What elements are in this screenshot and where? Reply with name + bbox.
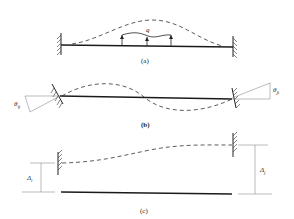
translated-support-left-icon bbox=[58, 150, 62, 175]
rotation-label-right: θji bbox=[273, 86, 280, 95]
fixed-support-left-icon bbox=[57, 33, 61, 55]
displacement-label-left: Δi bbox=[26, 174, 33, 183]
fixed-support-right-icon bbox=[233, 36, 237, 58]
rotation-label-left: θij bbox=[14, 100, 21, 109]
load-arrows-icon bbox=[120, 35, 173, 46]
caption-b: (b) bbox=[141, 121, 150, 129]
beam-b bbox=[60, 96, 232, 99]
beam-c bbox=[61, 192, 232, 194]
caption-c: (c) bbox=[140, 207, 148, 215]
translated-support-right-icon bbox=[233, 132, 237, 157]
deflected-shape-c bbox=[62, 145, 232, 163]
displacement-dimension-right-icon bbox=[238, 145, 272, 194]
panel-b: θij θji (b) bbox=[14, 83, 280, 129]
panel-c: Δi Δj (c) bbox=[22, 132, 272, 215]
caption-a: (a) bbox=[141, 57, 149, 65]
displacement-label-right: Δj bbox=[259, 166, 266, 175]
structural-beam-diagram: q (a) θij bbox=[0, 0, 294, 219]
panel-a: q (a) bbox=[57, 20, 237, 65]
rotated-support-right-icon bbox=[232, 88, 240, 108]
load-label-q: q bbox=[146, 26, 150, 34]
rotation-indicator-left-icon bbox=[25, 96, 60, 112]
